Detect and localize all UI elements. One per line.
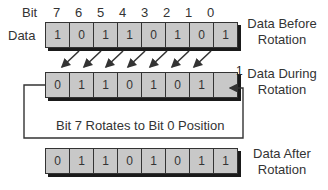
shift-arrow-group [62, 51, 211, 67]
rotation-arrows [0, 0, 328, 190]
rotate-loop-line [24, 85, 243, 138]
